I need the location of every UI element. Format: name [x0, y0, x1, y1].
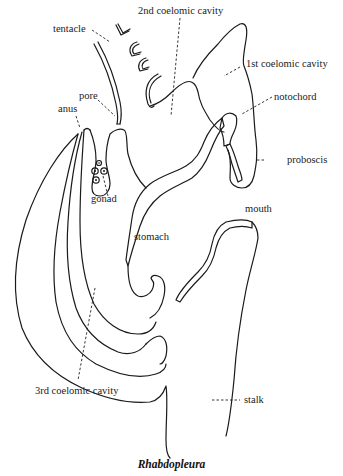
mesosome-outline [150, 81, 224, 132]
label-gonad: gonad [91, 194, 117, 205]
gut-loop [128, 266, 165, 318]
label-3rd-coelomic-cavity: 3rd coelomic cavity [35, 386, 118, 397]
label-stalk: stalk [244, 395, 264, 406]
pore-anus-region [84, 129, 146, 197]
label-stomach: stomach [134, 232, 169, 243]
label-proboscis: proboscis [287, 155, 327, 166]
label-notochord: notochord [274, 92, 317, 103]
label-pore: pore [79, 91, 98, 102]
label-mouth: mouth [245, 204, 272, 215]
figure-caption: Rhabdopleura [0, 458, 343, 470]
rhabdopleura-anatomy-diagram [0, 0, 343, 476]
tentacle-pinnules [116, 24, 161, 107]
leader-lines [76, 18, 272, 400]
tentacle-arm [94, 42, 121, 124]
label-2nd-coelomic-cavity: 2nd coelomic cavity [138, 6, 223, 17]
label-anus: anus [58, 104, 77, 115]
stomach-wall [126, 118, 252, 302]
label-1st-coelomic-cavity: 1st coelomic cavity [246, 59, 328, 70]
label-tentacle: tentacle [53, 24, 86, 35]
